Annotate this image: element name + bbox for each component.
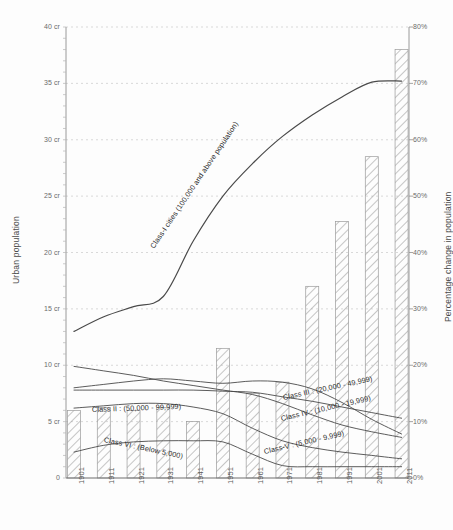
y-tick-left: 20 cr <box>30 249 60 256</box>
y-tick-left: 30 cr <box>30 136 60 143</box>
bar-1991 <box>336 221 349 478</box>
y-tick-left: 10 cr <box>30 361 60 368</box>
y-tick-right: 60% <box>413 136 445 143</box>
bar-1981 <box>306 286 319 478</box>
line-0 <box>74 81 402 332</box>
y-tick-right: 10% <box>413 418 445 425</box>
bar-1961 <box>246 393 259 478</box>
y-tick-right: 0% <box>413 474 445 481</box>
y-tick-left: 5 cr <box>30 418 60 425</box>
chart-plot-area <box>0 0 453 530</box>
y-tick-right: 40% <box>413 249 445 256</box>
y-tick-left: 40 cr <box>30 23 60 30</box>
y-tick-right: 20% <box>413 361 445 368</box>
x-tick-1991: 1991 <box>345 467 354 484</box>
bar-2011 <box>395 50 408 478</box>
bar-1951 <box>216 348 229 478</box>
x-tick-2011: 2011 <box>405 467 414 484</box>
y-tick-right: 70% <box>413 79 445 86</box>
y-tick-right: 50% <box>413 192 445 199</box>
chart-canvas: Urban population Percentage change in po… <box>0 0 453 530</box>
gridlines <box>66 27 409 422</box>
y-tick-right: 30% <box>413 305 445 312</box>
bar-series-percentage-change <box>68 50 409 478</box>
x-tick-1941: 1941 <box>196 467 205 484</box>
y-tick-right: 80% <box>413 23 445 30</box>
y-tick-left: 0 <box>30 474 60 481</box>
y-tick-left: 15 cr <box>30 305 60 312</box>
x-tick-2001: 2001 <box>375 467 384 484</box>
x-tick-1981: 1981 <box>315 467 324 484</box>
x-tick-1911: 1911 <box>107 467 116 484</box>
bar-2001 <box>365 157 378 478</box>
x-tick-1971: 1971 <box>285 467 294 484</box>
x-tick-1931: 1931 <box>166 467 175 484</box>
y-tick-left: 25 cr <box>30 192 60 199</box>
x-tick-1951: 1951 <box>226 467 235 484</box>
y-tick-left: 35 cr <box>30 79 60 86</box>
x-tick-1921: 1921 <box>137 467 146 484</box>
x-tick-1961: 1961 <box>256 467 265 484</box>
x-tick-1901: 1901 <box>77 467 86 484</box>
